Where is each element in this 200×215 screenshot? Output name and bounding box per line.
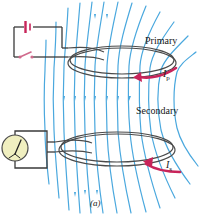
field-line — [74, 3, 80, 213]
primary-coil — [68, 46, 176, 78]
field-line — [84, 2, 92, 213]
transformer-induction-figure: Primary Secondary Ip Is (a) — [0, 0, 200, 215]
field-arrow-icon — [84, 190, 86, 195]
secondary-current-label: Is — [166, 160, 172, 173]
field-arrow-icon — [106, 14, 108, 19]
battery-icon — [26, 21, 31, 33]
figure-caption: (a) — [90, 199, 101, 208]
secondary-label: Secondary — [136, 106, 178, 116]
current-subscript: s — [169, 165, 172, 173]
field-line — [106, 2, 118, 213]
field-line — [63, 8, 69, 210]
secondary-coil — [55, 132, 175, 166]
field-line — [53, 22, 59, 198]
field-line — [117, 3, 132, 213]
primary-circuit-wires — [14, 27, 68, 57]
field-arrow-icon — [96, 190, 98, 195]
current-subscript: p — [166, 74, 170, 82]
field-arrow-icon — [74, 192, 76, 197]
field-arrow-icon — [94, 14, 96, 19]
field-direction-arrows — [63, 14, 131, 197]
field-line — [94, 2, 104, 213]
galvanometer-icon — [2, 135, 28, 161]
switch-icon[interactable] — [18, 52, 33, 59]
primary-label: Primary — [145, 36, 177, 46]
primary-current-label: Ip — [163, 69, 170, 82]
